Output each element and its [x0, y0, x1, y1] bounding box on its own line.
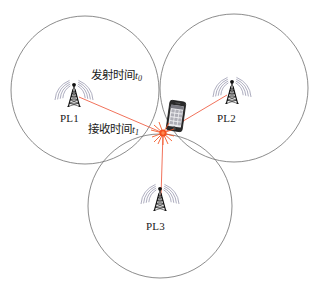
station-label-pl1: PL1 — [60, 113, 79, 124]
tower-pl3 — [141, 184, 179, 210]
trilateration-diagram — [0, 0, 318, 284]
transmit-time-annotation: 发射时间t0 — [91, 70, 142, 82]
tower-pl1 — [55, 80, 93, 106]
receive-time-annotation: 接收时间t1 — [88, 124, 139, 136]
station-label-pl2: PL2 — [217, 113, 236, 124]
transmit-time-text: 发射时间 — [91, 69, 135, 81]
transmit-time-subscript: 0 — [138, 74, 142, 83]
coverage-circle-pl3 — [88, 134, 232, 278]
receive-time-subscript: 1 — [135, 128, 139, 137]
receive-time-text: 接收时间 — [88, 123, 132, 135]
coverage-circles — [11, 14, 308, 278]
station-label-pl3: PL3 — [146, 221, 165, 232]
signal-rays — [79, 95, 227, 196]
diagram-canvas: PL1 PL2 PL3 发射时间t0 接收时间t1 — [0, 0, 318, 284]
mobile-phone-icon — [166, 100, 186, 132]
